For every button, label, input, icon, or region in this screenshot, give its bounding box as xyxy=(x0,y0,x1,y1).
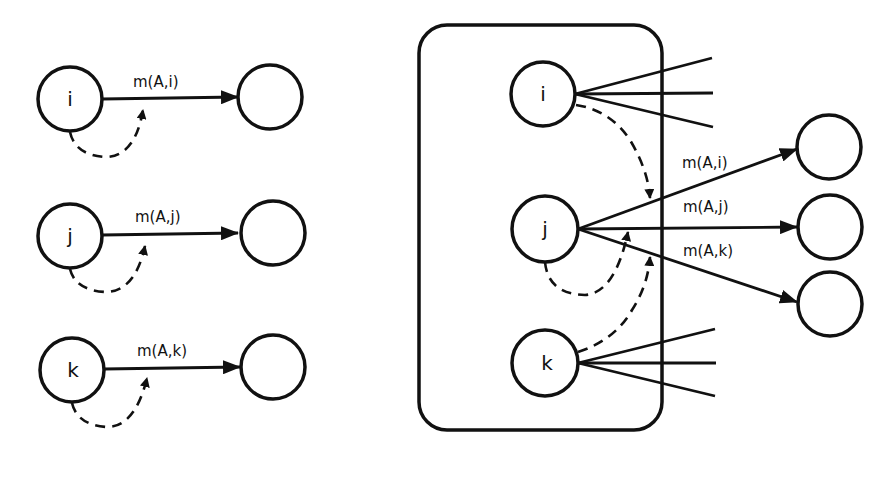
group-node-j-cluster: j xyxy=(512,149,797,302)
edge-label-right-i: m(A,i) xyxy=(682,154,728,172)
left-row-i: i m(A,i) xyxy=(38,65,302,157)
edge-j xyxy=(102,233,238,235)
edge-i xyxy=(102,97,238,99)
fan-edge-k-3 xyxy=(578,363,715,396)
target-node-right-1 xyxy=(797,115,861,179)
group-node-i-cluster: i xyxy=(511,58,713,127)
target-node-j xyxy=(241,201,305,265)
right-panel: i k j m(A,i) m(A,j) m(A,k) xyxy=(419,25,862,430)
target-node-i xyxy=(238,65,302,129)
diagram-canvas: i m(A,i) j m(A,j) k m(A,k) xyxy=(0,0,896,485)
edge-j-to-target-2 xyxy=(578,227,797,229)
left-panel: i m(A,i) j m(A,j) k m(A,k) xyxy=(38,65,305,427)
fan-edge-k-1 xyxy=(578,329,715,363)
left-row-k: k m(A,k) xyxy=(40,335,305,427)
node-k-label: k xyxy=(67,358,79,382)
edge-label-right-j: m(A,j) xyxy=(683,198,729,216)
target-node-k xyxy=(241,335,305,399)
edge-label-k: m(A,k) xyxy=(137,342,187,360)
target-node-right-3 xyxy=(798,272,862,336)
target-node-right-2 xyxy=(798,195,862,259)
group-node-i-label: i xyxy=(540,82,546,106)
fan-edge-i-2 xyxy=(575,93,713,94)
group-node-k-label: k xyxy=(541,351,553,375)
left-row-j: j m(A,j) xyxy=(38,201,305,292)
fan-edge-i-1 xyxy=(575,58,712,94)
edge-label-i: m(A,i) xyxy=(133,73,179,91)
edge-label-j: m(A,j) xyxy=(135,208,181,226)
node-j-label: j xyxy=(66,224,73,248)
edge-k xyxy=(104,367,240,369)
dashed-arrow-k-to-edge xyxy=(578,257,650,352)
edge-j-to-target-3 xyxy=(578,229,797,302)
dashed-arrow-i-to-edge xyxy=(576,105,650,198)
node-i-label: i xyxy=(67,87,73,111)
group-node-j-label: j xyxy=(541,217,548,241)
group-node-k-cluster: k xyxy=(512,329,716,396)
edge-label-right-k: m(A,k) xyxy=(683,242,733,260)
